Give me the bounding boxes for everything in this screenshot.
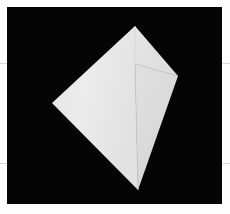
figure-root bbox=[0, 0, 230, 214]
render-canvas bbox=[7, 7, 222, 204]
face-right-lower bbox=[135, 64, 178, 190]
octahedral-solid bbox=[7, 7, 222, 204]
face-left bbox=[52, 26, 138, 190]
